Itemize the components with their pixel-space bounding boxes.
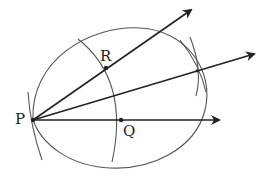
label-p: P [15, 112, 25, 127]
label-q: Q [123, 124, 135, 139]
point-r [104, 66, 108, 70]
construction-figure [0, 0, 270, 190]
intersection-arc-2 [180, 40, 206, 92]
large-arc [33, 28, 207, 168]
ray-upper [33, 10, 191, 120]
label-r: R [100, 49, 111, 64]
geometry-diagram: P Q R [0, 0, 270, 190]
point-intersection [196, 70, 199, 73]
ray-bisector [33, 54, 254, 120]
point-p [31, 118, 35, 122]
